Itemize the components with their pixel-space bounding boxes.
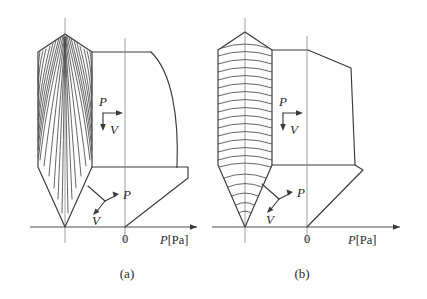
x-axis-label-a: P[Pa] <box>159 233 188 247</box>
pressure-arrow-lower-a <box>105 196 115 201</box>
vector-pair-lower-a: P V <box>88 186 131 228</box>
origin-label-b: 0 <box>304 232 310 246</box>
x-axis-arrowhead-a <box>190 224 197 230</box>
x-axis-unit-a: [Pa] <box>168 233 189 247</box>
velocity-arrowhead-upper-a <box>100 124 106 131</box>
velocity-arrow-lower-b <box>271 199 279 209</box>
pressure-label-lower-b: P <box>296 185 305 200</box>
x-axis-arrowhead-b <box>393 224 400 230</box>
flow-streamlines-a-left <box>38 36 65 213</box>
vector-stem-lower-a <box>88 186 105 201</box>
pressure-curve-a <box>151 52 177 167</box>
vector-pair-upper-b: P V <box>278 94 303 137</box>
pressure-label-upper-a: P <box>98 94 107 109</box>
origin-label-a: 0 <box>122 232 128 246</box>
x-axis-symbol-b: P <box>347 233 356 247</box>
figure-root: P V P V 0 P[Pa] (a) <box>0 0 427 299</box>
velocity-label-lower-b: V <box>266 212 276 227</box>
velocity-arrowhead-upper-b <box>280 124 286 131</box>
pressure-profile-b <box>307 50 363 227</box>
velocity-label-upper-b: V <box>290 122 300 137</box>
pressure-label-lower-a: P <box>122 187 131 202</box>
velocity-label-lower-a: V <box>92 213 102 228</box>
x-axis-symbol-a: P <box>159 233 168 247</box>
hopper-pressure-a <box>125 167 188 227</box>
vector-pair-upper-a: P V <box>98 94 123 137</box>
pressure-label-upper-b: P <box>278 94 287 109</box>
caption-b: (b) <box>294 266 309 281</box>
pressure-arrowhead-upper-a <box>116 110 123 116</box>
x-axis-unit-b: [Pa] <box>356 233 377 247</box>
panel-a: P V P V 0 P[Pa] (a) <box>30 18 197 281</box>
figure-canvas: P V P V 0 P[Pa] (a) <box>0 0 427 299</box>
pressure-arrow-lower-b <box>279 194 289 199</box>
pressure-arrowhead-upper-b <box>296 110 303 116</box>
x-axis-label-b: P[Pa] <box>347 233 376 247</box>
vector-stem-lower-b <box>262 184 279 199</box>
panel-b: P V P V 0 P[Pa] (b) <box>212 18 400 281</box>
vector-pair-lower-b: P V <box>262 184 305 227</box>
velocity-arrow-lower-a <box>97 201 105 211</box>
velocity-label-upper-a: V <box>110 122 120 137</box>
caption-a: (a) <box>120 266 134 281</box>
